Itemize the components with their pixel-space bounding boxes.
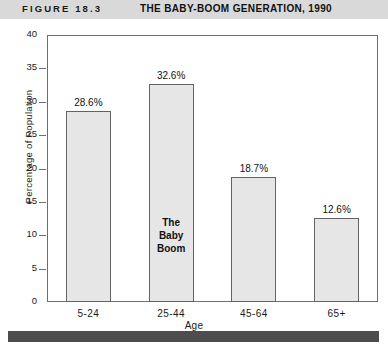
figure-header-band: FIGURE 18.3 THE BABY-BOOM GENERATION, 19… — [0, 0, 388, 19]
bottom-rule — [8, 331, 379, 342]
y-axis-tick-mark — [39, 135, 46, 136]
y-axis-tick-mark — [39, 269, 46, 270]
y-axis-tick-label: 40 — [26, 28, 37, 39]
bar — [314, 218, 359, 302]
y-axis-tick-mark — [39, 202, 46, 203]
bar — [66, 111, 111, 302]
y-axis-tick-label: 25 — [26, 128, 37, 139]
bar — [149, 84, 194, 302]
y-axis-tick-label: 30 — [26, 95, 37, 106]
x-axis-tick-label: 25-44 — [131, 308, 211, 319]
x-axis-tick-label: 65+ — [297, 308, 377, 319]
y-axis-tick-mark — [39, 235, 46, 236]
y-axis-tick-label: 20 — [26, 162, 37, 173]
bar-chart: Percentage of Population 403530252015105… — [0, 19, 388, 330]
x-axis-tick-label: 45-64 — [214, 308, 294, 319]
bar-value-label: 12.6% — [307, 204, 367, 215]
y-axis-tick-mark — [39, 169, 46, 170]
y-axis-tick-label: 5 — [32, 262, 37, 273]
y-axis-tick-label: 15 — [26, 195, 37, 206]
bar-value-label: 28.6% — [58, 97, 118, 108]
x-axis-title: Age — [0, 320, 388, 331]
bar-annotation: TheBabyBoom — [131, 216, 211, 255]
x-axis-tick-label: 5-24 — [48, 308, 128, 319]
y-axis-tick-mark — [39, 102, 46, 103]
bar-value-label: 32.6% — [141, 70, 201, 81]
figure-title: THE BABY-BOOM GENERATION, 1990 — [140, 3, 332, 14]
y-axis-tick-label: 0 — [32, 295, 37, 306]
bar — [231, 177, 276, 302]
y-axis-tick-label: 35 — [26, 61, 37, 72]
figure-number-label: FIGURE 18.3 — [22, 3, 102, 14]
bar-value-label: 18.7% — [224, 163, 284, 174]
y-axis-tick-label: 10 — [26, 228, 37, 239]
y-axis-tick-mark — [39, 68, 46, 69]
